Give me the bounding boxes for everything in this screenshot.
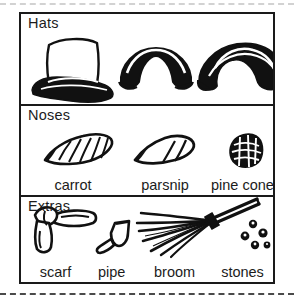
label-scarf: scarf (25, 264, 86, 281)
section-heading-extras: Extras (28, 199, 70, 215)
stones[interactable] (233, 219, 273, 261)
label-broom: broom (137, 264, 212, 281)
floppy-hat[interactable] (195, 32, 273, 102)
parsnip[interactable] (129, 132, 201, 174)
section-heading-hats: Hats (28, 16, 59, 32)
label-pipe: pipe (86, 264, 137, 281)
dashed-cut-line-top (0, 3, 294, 5)
label-stones: stones (212, 264, 273, 281)
section-extras: Extras (21, 197, 273, 282)
pine-cone[interactable] (223, 130, 269, 176)
dashed-cut-line-bottom (0, 293, 294, 295)
label-parsnip: parsnip (119, 177, 211, 194)
label-pine-cone: pine cone (211, 177, 271, 194)
section-hats: Hats (21, 14, 273, 106)
carrot[interactable] (37, 130, 117, 174)
noses-art-row (21, 130, 273, 172)
worksheet-page: Hats (0, 0, 294, 303)
extras-label-row: scarf pipe broom stones (21, 264, 273, 281)
top-hat[interactable] (27, 32, 119, 106)
noses-label-row: carrot parsnip pine cone (21, 177, 273, 194)
section-noses: Noses (21, 106, 273, 197)
label-carrot: carrot (27, 177, 119, 194)
decorations-sheet: Hats (19, 12, 275, 284)
section-heading-noses: Noses (28, 108, 70, 124)
hats-art-row (21, 14, 273, 106)
bowler-hat[interactable] (115, 40, 197, 100)
